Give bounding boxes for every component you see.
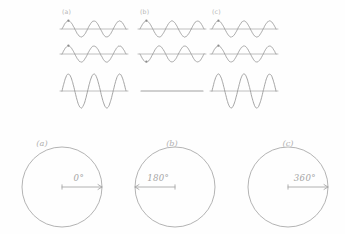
wave-phase-figure: (a) (b) (c) (0, 0, 345, 234)
radius-arrow-b (135, 185, 175, 190)
wave-column-c (210, 20, 278, 109)
circle-section: (a) 0° (b) 180° (c) 360° (22, 138, 328, 227)
wave-dot-a1 (67, 20, 69, 22)
phase-circle-a: (a) 0° (22, 138, 102, 227)
wave-column-a (60, 20, 128, 109)
panel-label-c: (c) (212, 8, 221, 15)
wave-dot-b1 (145, 20, 147, 22)
wave-dot-c1 (217, 20, 219, 22)
circle-label-c: (c) (283, 138, 294, 148)
angle-label-a: 0° (74, 173, 84, 183)
wave-dot-c2 (217, 45, 219, 47)
angle-label-b: 180° (147, 173, 169, 183)
wave-dot-a2 (67, 45, 69, 47)
angle-label-c: 360° (294, 173, 316, 183)
circle-label-a: (a) (36, 138, 47, 148)
panel-label-a: (a) (62, 8, 71, 15)
panel-label-b: (b) (140, 8, 149, 15)
phase-circle-b: (b) 180° (135, 138, 215, 227)
wave-dot-b2 (145, 61, 147, 63)
radius-arrow-a (62, 185, 102, 190)
figure-canvas: (a) (b) (c) (0, 0, 345, 234)
circle-label-b: (b) (166, 138, 178, 148)
wave-column-b (138, 20, 206, 92)
radius-arrow-c (288, 185, 328, 190)
phase-circle-c: (c) 360° (248, 138, 328, 227)
wave-section: (a) (b) (c) (60, 8, 278, 108)
